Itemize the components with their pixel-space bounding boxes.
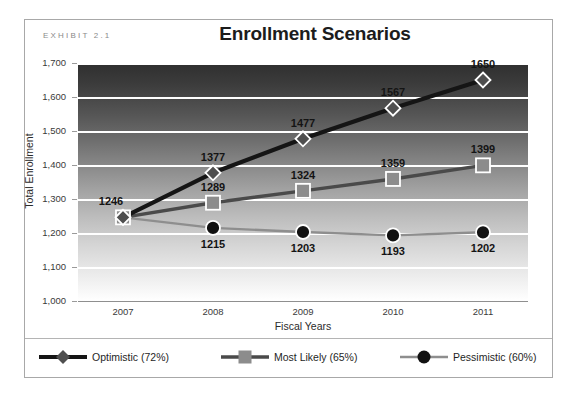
x-axis-tick-label: 2008 [183, 306, 243, 317]
data-point-marker [296, 225, 310, 239]
data-point-label: 1377 [201, 151, 225, 163]
chart-page: EXHIBIT 2.1 Enrollment Scenarios Total E… [0, 0, 582, 403]
y-axis-tick-label: 1,700 [14, 57, 66, 68]
data-point-marker [386, 228, 400, 242]
data-point-label: 1359 [381, 157, 405, 169]
chart-series-layer [78, 63, 528, 301]
data-point-label: 1203 [291, 242, 315, 254]
x-axis-tick-label: 2011 [453, 306, 513, 317]
data-point-label: 1324 [291, 169, 315, 181]
data-point-marker [386, 101, 401, 116]
data-point-label: 1650 [471, 58, 495, 70]
y-axis-tick-mark [72, 199, 77, 200]
data-point-label: 1289 [201, 181, 225, 193]
x-axis-line [78, 301, 528, 302]
y-axis-tick-label: 1,600 [14, 91, 66, 102]
y-axis-tick-mark [72, 63, 77, 64]
data-point-marker [476, 73, 491, 88]
x-axis-tick-label: 2007 [93, 306, 153, 317]
y-axis-tick-label: 1,200 [14, 227, 66, 238]
legend-item-label: Pessimistic (60%) [453, 351, 536, 363]
data-point-marker [206, 221, 220, 235]
y-axis-tick-mark [72, 165, 77, 166]
data-point-marker [476, 225, 490, 239]
y-axis-title: Total Enrollment [23, 101, 35, 241]
data-point-marker [206, 196, 220, 210]
data-point-label: 1477 [291, 117, 315, 129]
data-point-marker [476, 158, 490, 172]
legend-item[interactable]: Optimistic (72%) [39, 349, 169, 365]
data-point-marker [296, 184, 310, 198]
plot-area [78, 63, 528, 301]
legend-marker-icon [400, 349, 448, 365]
y-axis-tick-mark [72, 267, 77, 268]
y-axis-tick-mark [72, 131, 77, 132]
data-point-label: 1567 [381, 86, 405, 98]
y-axis-tick-label: 1,400 [14, 159, 66, 170]
data-point-label: 1202 [471, 242, 495, 254]
data-point-marker [206, 165, 221, 180]
legend-item-label: Optimistic (72%) [92, 351, 169, 363]
legend-item-label: Most Likely (65%) [274, 351, 357, 363]
data-point-label: 1215 [201, 238, 225, 250]
y-axis-tick-label: 1,300 [14, 193, 66, 204]
exhibit-label: EXHIBIT 2.1 [43, 31, 112, 40]
chart-title: Enrollment Scenarios [180, 23, 450, 45]
legend-item[interactable]: Most Likely (65%) [221, 349, 357, 365]
x-axis-tick-label: 2009 [273, 306, 333, 317]
legend-marker-icon [39, 349, 87, 365]
y-axis-tick-label: 1,000 [14, 295, 66, 306]
chart-legend: Optimistic (72%)Most Likely (65%)Pessimi… [25, 338, 552, 378]
y-axis-tick-mark [72, 233, 77, 234]
data-point-label: 1193 [381, 245, 405, 257]
y-axis-tick-mark [72, 97, 77, 98]
data-point-label: 1399 [471, 143, 495, 155]
data-point-marker [386, 172, 400, 186]
x-axis-tick-label: 2010 [363, 306, 423, 317]
legend-item[interactable]: Pessimistic (60%) [400, 349, 536, 365]
data-point-label: 1246 [99, 195, 123, 207]
y-axis-tick-label: 1,100 [14, 261, 66, 272]
data-point-marker [296, 131, 311, 146]
y-axis-tick-mark [72, 301, 77, 302]
legend-marker-icon [221, 349, 269, 365]
x-axis-title: Fiscal Years [78, 320, 528, 332]
y-axis-tick-label: 1,500 [14, 125, 66, 136]
